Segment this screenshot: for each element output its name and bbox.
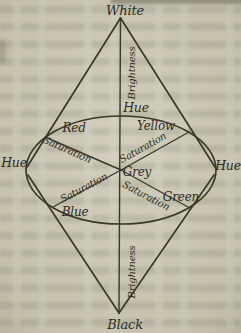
grey-center-label: Grey <box>123 166 151 178</box>
hsb-bicone-diagram <box>0 0 241 333</box>
white-vertex-label: White <box>106 4 144 17</box>
red-region-label: Red <box>62 122 85 134</box>
hue-left-label: Hue <box>1 157 27 170</box>
brightness-axis-line <box>119 18 121 313</box>
hue-top-label: Hue <box>123 102 149 115</box>
brightness-lower-label: Brightness <box>127 246 137 299</box>
yellow-region-label: Yellow <box>137 120 175 132</box>
blue-region-label: Blue <box>62 206 89 218</box>
black-vertex-label: Black <box>107 318 143 331</box>
hue-right-label: Hue <box>215 160 241 173</box>
upper-cone-left-line <box>27 18 121 167</box>
brightness-upper-label: Brightness <box>127 47 137 100</box>
scanned-book-page: White Black Brightness Brightness Hue Hu… <box>0 0 241 333</box>
